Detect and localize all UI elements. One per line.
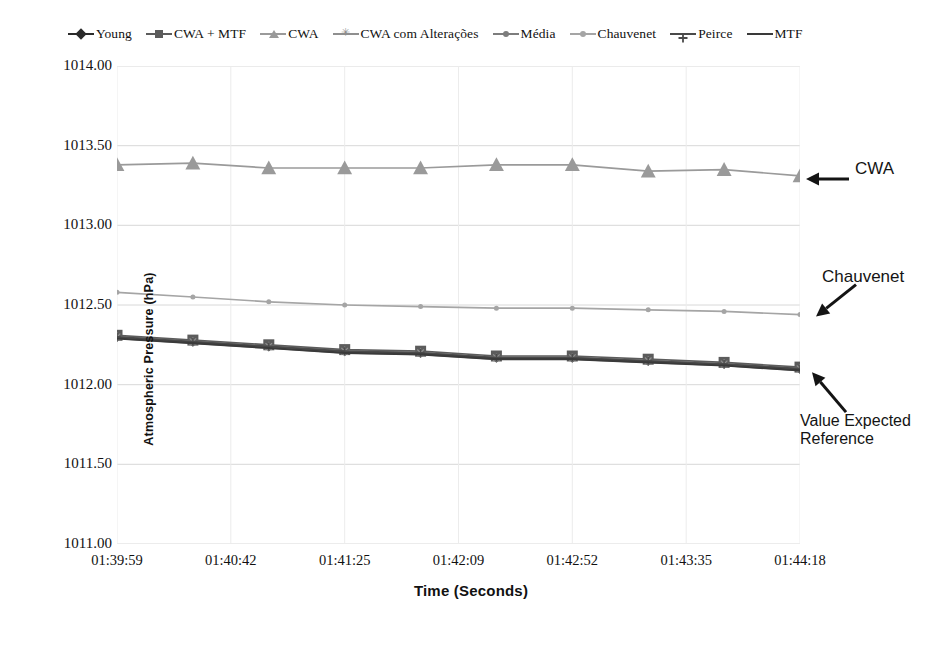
annotation-cwa: CWA [855,159,894,179]
y-tick-label: 1011.50 [20,455,112,472]
x-tick-label: 01:42:52 [522,552,622,569]
legend-item-label: Média [521,26,556,42]
legend-marker-dot [503,31,509,37]
legend-item-cwa-com-altera-es[interactable]: ✳CWA com Alterações [333,26,479,42]
legend-item-chauvenet[interactable]: Chauvenet [570,26,657,42]
chart-legend: YoungCWA + MTFCWA✳CWA com AlteraçõesMédi… [68,22,928,46]
arrow-cwa [806,172,849,185]
legend-item-label: CWA + MTF [174,26,246,42]
y-tick-label: 1012.50 [20,296,112,313]
legend-item-cwa[interactable]: CWA [260,26,318,42]
x-tick-label: 01:39:59 [67,552,167,569]
y-tick-label: 1011.00 [20,535,112,552]
data-point-marker [494,306,499,311]
data-point-marker [646,307,651,312]
x-axis-tick-labels: 01:39:5901:40:4201:41:2501:42:0901:42:52… [0,552,943,574]
legend-marker-plus [678,29,686,37]
legend-marker-dot [580,31,586,37]
legend-key-swatch [493,27,519,41]
legend-item-label: Chauvenet [598,26,657,42]
data-point-marker [266,299,271,304]
x-tick-label: 01:42:09 [409,552,509,569]
x-tick-label: 01:43:35 [636,552,736,569]
legend-item-peirce[interactable]: Peirce [670,26,732,42]
legend-item-label: CWA com Alterações [361,26,479,42]
legend-key-swatch [260,27,286,41]
legend-item-cwa-mtf[interactable]: CWA + MTF [146,26,246,42]
x-axis-title: Time (Seconds) [321,582,621,599]
legend-marker-triangle [269,30,279,38]
legend-marker-star: ✳ [340,28,352,36]
data-point-marker [418,304,423,309]
legend-item-label: Peirce [698,26,732,42]
annotation-value-expected-reference: Value Expected Reference [800,412,911,449]
y-tick-label: 1013.00 [20,216,112,233]
legend-item-mtf[interactable]: MTF [747,26,803,42]
legend-item-label: MTF [775,26,803,42]
data-point-marker [570,306,575,311]
legend-key-swatch [747,27,773,41]
legend-key-swatch: ✳ [333,27,359,41]
x-tick-label: 01:41:25 [295,552,395,569]
data-point-marker [342,303,347,308]
plot-area: Atmospheric Pressure (hPa) [117,66,800,544]
legend-key-swatch [570,27,596,41]
plot-canvas [117,66,800,544]
x-tick-label: 01:40:42 [181,552,281,569]
legend-key-swatch [146,27,172,41]
data-point-marker [798,312,801,317]
legend-item-label: CWA [288,26,318,42]
legend-marker-square [155,30,163,38]
chart-figure: YoungCWA + MTFCWA✳CWA com AlteraçõesMédi… [0,0,943,647]
arrow-value-expected-reference [812,372,846,412]
annotation-chauvenet: Chauvenet [822,267,904,287]
legend-item-m-dia[interactable]: Média [493,26,556,42]
arrow-chauvenet [816,285,856,317]
y-axis-title: Atmospheric Pressure (hPa) [142,209,156,509]
data-point-marker [190,295,195,300]
legend-key-line [747,33,773,35]
x-tick-label: 01:44:18 [750,552,850,569]
y-tick-label: 1012.00 [20,376,112,393]
legend-key-swatch [670,27,696,41]
y-axis-tick-labels: 1014.001013.501013.001012.501012.001011.… [16,0,112,647]
data-point-marker [117,290,120,295]
data-point-marker [722,309,727,314]
y-tick-label: 1013.50 [20,137,112,154]
y-tick-label: 1014.00 [20,57,112,74]
